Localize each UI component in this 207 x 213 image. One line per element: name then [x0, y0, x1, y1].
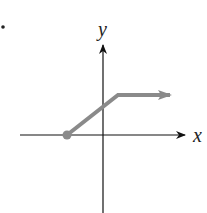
graph-figure: x y: [0, 0, 207, 213]
x-axis-label: x: [192, 124, 202, 146]
y-axis-label: y: [96, 18, 107, 41]
bullet-dot: [1, 25, 5, 29]
start-point-dot: [63, 131, 72, 140]
graph-line: [67, 95, 170, 135]
